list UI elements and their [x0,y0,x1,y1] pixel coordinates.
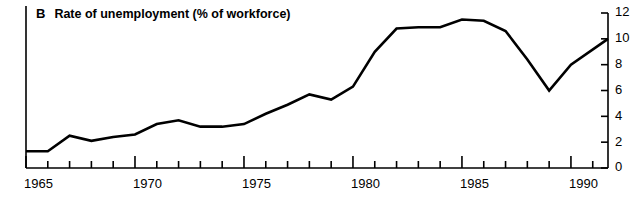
x-tick-label-1990: 1990 [569,176,598,191]
y-axis-ticks [601,13,608,168]
unemployment-data-line [26,19,608,151]
unemployment-chart-figure: B Rate of unemployment (% of workforce) … [0,0,642,219]
y-tick-label-6: 6 [615,82,622,97]
y-tick-label-4: 4 [615,108,622,123]
x-tick-label-1975: 1975 [242,176,271,191]
x-tick-label-1980: 1980 [351,176,380,191]
x-tick-label-1985: 1985 [460,176,489,191]
y-axis-labels: 024681012 [615,4,629,174]
y-tick-label-2: 2 [615,134,622,149]
axes-group [26,6,608,168]
x-axis-labels: 196519701975198019851990 [24,176,598,191]
line-chart-plot: 024681012 196519701975198019851990 [0,0,642,219]
y-tick-label-12: 12 [615,4,629,19]
y-tick-label-10: 10 [615,30,629,45]
x-axis-ticks [26,156,593,168]
y-tick-label-0: 0 [615,159,622,174]
x-tick-label-1965: 1965 [24,176,53,191]
x-tick-label-1970: 1970 [133,176,162,191]
y-tick-label-8: 8 [615,56,622,71]
